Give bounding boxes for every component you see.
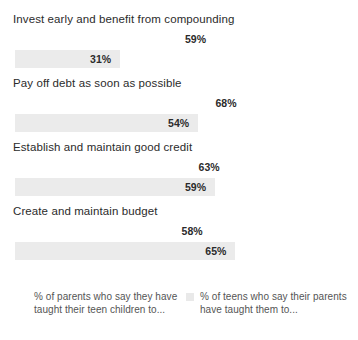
legend-swatch-icon	[20, 293, 28, 301]
category-label: Pay off debt as soon as possible	[13, 76, 182, 90]
bar-value-parents: 59%	[185, 30, 206, 48]
bar-parents[interactable]	[15, 158, 229, 176]
bar-value-teens: 54%	[168, 114, 189, 132]
category-label: Invest early and benefit from compoundin…	[13, 12, 234, 26]
legend-swatch-icon	[186, 293, 194, 301]
legend-item-teens[interactable]: % of teens who say their parents have ta…	[186, 290, 351, 316]
bar-teens[interactable]	[15, 242, 235, 260]
bar-value-parents: 58%	[182, 222, 203, 240]
bar-group: Establish and maintain good credit 63% 5…	[0, 136, 358, 200]
grouped-bar-chart: Invest early and benefit from compoundin…	[0, 0, 358, 340]
legend-label: % of teens who say their parents have ta…	[200, 290, 351, 316]
bar-group: Pay off debt as soon as possible 68% 54%	[0, 72, 358, 136]
bar-value-parents: 63%	[199, 158, 220, 176]
chart-legend: % of parents who say they have taught th…	[0, 290, 358, 330]
bar-value-teens: 59%	[185, 178, 206, 196]
bar-value-teens: 65%	[205, 242, 226, 260]
category-label: Establish and maintain good credit	[13, 140, 192, 154]
legend-item-parents[interactable]: % of parents who say they have taught th…	[20, 290, 180, 316]
bar-value-parents: 68%	[216, 94, 237, 112]
bar-group: Invest early and benefit from compoundin…	[0, 8, 358, 72]
bar-value-teens: 31%	[90, 50, 111, 68]
category-label: Create and maintain budget	[13, 204, 158, 218]
chart-plot-area: Invest early and benefit from compoundin…	[0, 8, 358, 286]
legend-label: % of parents who say they have taught th…	[34, 290, 180, 316]
bar-group: Create and maintain budget 58% 65%	[0, 200, 358, 264]
bar-parents[interactable]	[15, 94, 246, 112]
